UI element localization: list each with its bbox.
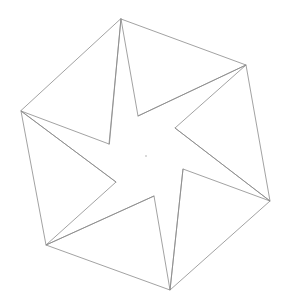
spoke-line [170, 169, 183, 290]
spoke-line [175, 128, 270, 201]
hexagon-star-diagram [0, 0, 287, 306]
center-point [145, 155, 146, 156]
hexagon-outline [21, 19, 270, 290]
spoke-line [138, 65, 246, 116]
outer-hexagon [21, 19, 270, 290]
spoke-line [46, 196, 154, 245]
spoke-line [109, 19, 121, 144]
spoke-line [21, 111, 116, 182]
